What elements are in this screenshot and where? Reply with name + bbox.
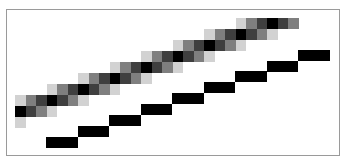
aliased-pixel-block <box>267 61 299 72</box>
aa-pixel-mid <box>152 51 163 62</box>
aa-pixel-dark <box>246 29 257 40</box>
aa-pixel-light <box>173 62 184 73</box>
aliased-pixel-block <box>172 93 204 104</box>
aa-pixel-light <box>267 29 278 40</box>
aa-pixel-mid <box>257 29 268 40</box>
aa-pixel-mid <box>89 73 100 84</box>
aa-pixel-light <box>15 95 26 106</box>
aa-pixel-mid <box>162 62 173 73</box>
aa-pixel-light <box>141 51 152 62</box>
aa-pixel-dark <box>257 18 268 29</box>
aa-pixel-dark <box>162 51 173 62</box>
aa-pixel-light <box>78 95 89 106</box>
aliased-pixel-block <box>141 104 173 115</box>
aa-pixel-mid <box>57 84 68 95</box>
aa-pixel-black <box>78 84 89 95</box>
aa-pixel-mid <box>131 73 142 84</box>
aa-pixel-black <box>110 73 121 84</box>
aa-pixel-light <box>236 40 247 51</box>
aa-pixel-light <box>204 29 215 40</box>
aa-pixel-light <box>173 40 184 51</box>
aa-pixel-mid <box>183 40 194 51</box>
aa-pixel-mid <box>26 95 37 106</box>
aa-pixel-light <box>47 84 58 95</box>
diagram-canvas <box>0 0 346 161</box>
aa-pixel-dark <box>36 95 47 106</box>
aa-pixel-dark <box>278 18 289 29</box>
aa-pixel-mid <box>194 51 205 62</box>
aa-pixel-mid <box>36 106 47 117</box>
aa-pixel-mid <box>99 84 110 95</box>
aa-pixel-light <box>236 18 247 29</box>
aa-pixel-mid <box>246 18 257 29</box>
aliased-pixel-block <box>235 71 267 82</box>
aa-pixel-mid <box>68 95 79 106</box>
aa-pixel-black <box>236 29 247 40</box>
aa-pixel-dark <box>194 40 205 51</box>
aliased-pixel-block <box>109 115 141 126</box>
aa-pixel-black <box>204 40 215 51</box>
aa-pixel-mid <box>215 29 226 40</box>
aa-pixel-light <box>110 84 121 95</box>
aa-pixel-light <box>110 62 121 73</box>
aa-pixel-black <box>141 62 152 73</box>
aa-pixel-dark <box>68 84 79 95</box>
aa-pixel-light <box>204 51 215 62</box>
aliased-pixel-block <box>204 82 236 93</box>
aa-pixel-dark <box>57 95 68 106</box>
aa-pixel-mid <box>225 40 236 51</box>
aa-pixel-black <box>15 106 26 117</box>
aa-pixel-dark <box>215 40 226 51</box>
aa-pixel-light <box>141 73 152 84</box>
aa-pixel-dark <box>152 62 163 73</box>
aa-pixel-dark <box>225 29 236 40</box>
aa-pixel-dark <box>89 84 100 95</box>
aa-pixel-dark <box>120 73 131 84</box>
aa-pixel-black <box>173 51 184 62</box>
aa-pixel-dark <box>183 51 194 62</box>
aliased-pixel-block <box>298 50 330 61</box>
aa-pixel-black <box>267 18 278 29</box>
aa-pixel-dark <box>131 62 142 73</box>
aa-pixel-mid <box>120 62 131 73</box>
aliased-pixel-block <box>78 126 110 137</box>
aa-pixel-dark <box>99 73 110 84</box>
aa-pixel-light <box>78 73 89 84</box>
aa-pixel-mid <box>288 18 299 29</box>
aliased-pixel-block <box>46 137 78 148</box>
aa-pixel-light <box>47 106 58 117</box>
aa-pixel-dark <box>26 106 37 117</box>
aa-pixel-black <box>47 95 58 106</box>
aa-pixel-light <box>15 117 26 128</box>
